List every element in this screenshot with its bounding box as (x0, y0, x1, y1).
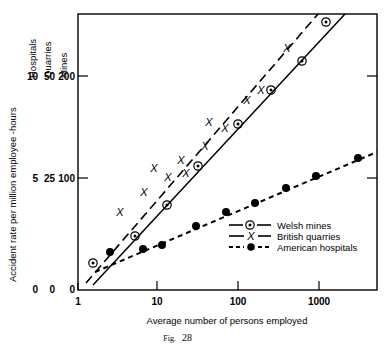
y-axis-title: Accident rate per million employee -hour… (7, 107, 18, 282)
y-tick-hospitals-5: 5 (32, 173, 38, 184)
data-point (163, 201, 171, 209)
data-point (192, 222, 200, 230)
y-tick-mines-100: 100 (58, 173, 75, 184)
data-point (312, 172, 320, 180)
data-point: X (242, 94, 251, 106)
x-axis-title: Average number of persons employed (147, 315, 308, 326)
y-tick-quarries-25: 25 (44, 173, 56, 184)
y-tick-mines-0: 0 (69, 284, 75, 295)
y-tick-mines-200: 200 (58, 71, 75, 82)
data-point: X (181, 167, 190, 179)
legend-item-welsh-mines: Welsh mines (229, 220, 331, 231)
data-point (282, 184, 290, 192)
filled-dot-icon (247, 243, 255, 251)
y-tick-quarries-50: 50 (44, 71, 56, 82)
legend-item-british-quarries: X British quarries (229, 230, 341, 242)
data-point: X (115, 206, 124, 218)
data-point (89, 259, 97, 267)
data-point (354, 154, 362, 162)
data-point: X (200, 140, 209, 152)
x-tick-label-1: 1 (75, 296, 81, 307)
data-point: X (204, 116, 213, 128)
y-tick-hospitals-10: 10 (27, 71, 39, 82)
data-point (251, 199, 259, 207)
legend-label-american-hospitals: American hospitals (277, 242, 358, 253)
data-point (158, 241, 166, 249)
data-point (194, 162, 202, 170)
data-point (234, 120, 242, 128)
trendline-american-hospitals (95, 152, 377, 272)
x-tick-label-1000: 1000 (308, 296, 331, 307)
data-point (139, 245, 147, 253)
data-point: X (176, 154, 185, 166)
legend-label-welsh-mines: Welsh mines (277, 220, 331, 231)
circled-dot-icon-center (249, 224, 252, 227)
legend-label-british-quarries: British quarries (277, 231, 341, 242)
x-marker-icon: X (246, 230, 255, 242)
x-tick-label-10: 10 (151, 296, 163, 307)
legend: Welsh mines X British quarries American … (229, 220, 358, 253)
data-point: X (149, 162, 158, 174)
accident-rate-chart: Accident rate per million employee -hour… (0, 0, 390, 346)
data-point: X (282, 42, 291, 54)
data-point (106, 248, 114, 256)
x-tick-label-100: 100 (230, 296, 247, 307)
figure-caption-number: 28 (182, 332, 192, 343)
figure-container: Accident rate per million employee -hour… (0, 0, 390, 346)
series-british-quarries: X X X X X X X X X X X X (115, 42, 291, 218)
data-point: X (163, 171, 172, 183)
data-point: X (139, 186, 148, 198)
data-point: X (220, 122, 229, 134)
data-point (222, 208, 230, 216)
legend-item-american-hospitals: American hospitals (229, 242, 358, 253)
figure-caption-prefix: Fig. (163, 334, 176, 343)
y-tick-hospitals-0: 0 (32, 284, 38, 295)
data-point (298, 57, 306, 65)
data-point: X (256, 84, 265, 96)
y-tick-quarries-0: 0 (49, 284, 55, 295)
data-point (322, 18, 330, 26)
